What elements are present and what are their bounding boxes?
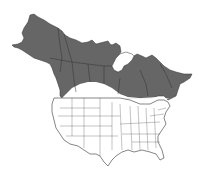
united-states: [52, 98, 170, 166]
north-america-map: [0, 0, 202, 177]
range-map: [0, 0, 202, 177]
